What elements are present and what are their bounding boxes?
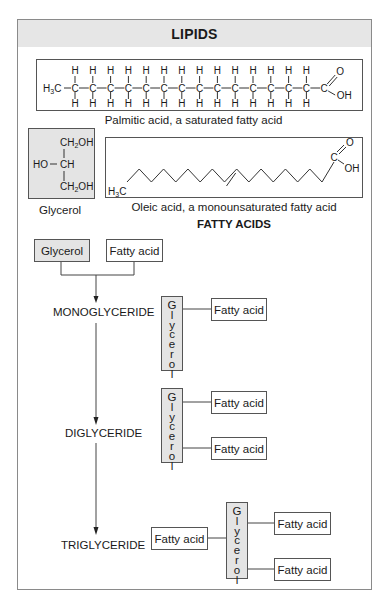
stage-label-diglyceride: DIGLYCERIDE — [65, 427, 142, 439]
stage-label-monoglyceride: MONOGLYCERIDE — [53, 306, 154, 318]
triglyceride-fatty-acid-2: Fatty acid — [274, 512, 331, 535]
flow-connectors — [0, 0, 387, 599]
arrow-down-icon — [94, 417, 99, 425]
diglyceride-fatty-acid-2: Fatty acid — [211, 437, 267, 460]
glycerol-letter: l — [171, 370, 174, 380]
diglyceride-glycerol: Glycerol — [161, 388, 183, 463]
monoglyceride-fatty-acid-1: Fatty acid — [211, 298, 267, 321]
triglyceride-fatty-acid-3: Fatty acid — [274, 558, 331, 581]
monoglyceride-glycerol: Glycerol — [161, 296, 183, 371]
arrow-down-icon — [94, 527, 99, 535]
glycerol-letter: l — [236, 576, 239, 586]
diglyceride-fatty-acid-1: Fatty acid — [211, 391, 267, 414]
glycerol-letter: l — [171, 462, 174, 472]
triglyceride-glycerol: Glycerol — [226, 502, 248, 579]
stage-label-triglyceride: TRIGLYCERIDE — [61, 539, 145, 551]
triglyceride-fatty-acid-1: Fatty acid — [151, 527, 208, 550]
arrow-down-icon — [94, 296, 99, 303]
